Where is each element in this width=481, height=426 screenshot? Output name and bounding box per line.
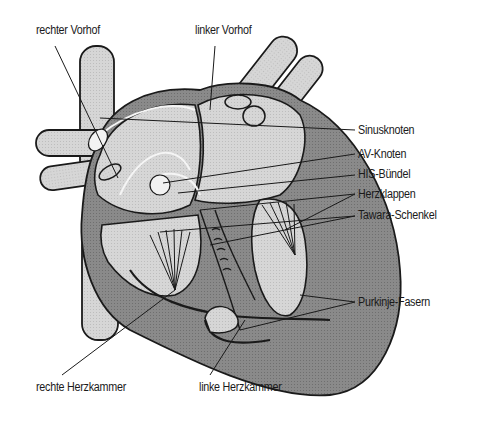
label-right-ventricle: rechte Herzkammer (36, 381, 126, 394)
label-his-bundle: HIS-Bündel (358, 168, 410, 181)
label-right-atrium: rechter Vorhof (36, 24, 100, 37)
pulmonary-opening-1 (225, 95, 251, 109)
label-left-atrium: linker Vorhof (195, 24, 251, 37)
label-sinus-node: Sinusknoten (358, 124, 414, 137)
label-purkinje-fibers: Purkinje-Fasern (358, 296, 430, 309)
av-node (150, 175, 170, 195)
label-left-ventricle: linke Herzkammer (199, 381, 281, 394)
pulmonary-opening-2 (243, 106, 265, 126)
label-tawara-branches: Tawara-Schenkel (358, 209, 437, 222)
label-heart-valves: Herzklappen (358, 188, 416, 201)
label-av-node: AV-Knoten (358, 148, 406, 161)
